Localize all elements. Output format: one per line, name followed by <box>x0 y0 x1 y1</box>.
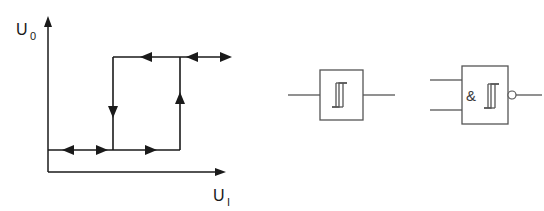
y-axis-label-main: U <box>16 21 28 38</box>
high-branch-tail-arrow-right <box>220 52 232 62</box>
left-vertical-arrow-down <box>108 106 118 118</box>
schmitt-trigger-symbol <box>288 70 395 120</box>
low-branch-arrow-right <box>96 145 108 155</box>
technical-diagram: U 0 U I & <box>0 0 544 211</box>
left-vertical-transition <box>108 57 118 150</box>
and-operator-label: & <box>466 87 476 104</box>
high-branch <box>113 52 232 62</box>
x-axis-label-main: U <box>213 187 225 204</box>
right-vertical-transition <box>175 57 185 150</box>
figure-canvas: U 0 U I & <box>0 0 544 211</box>
x-axis <box>48 168 226 176</box>
low-branch-inner-arrow-right <box>145 145 157 155</box>
high-branch-inner-arrow-left <box>140 52 152 62</box>
y-axis-arrowhead <box>44 16 52 27</box>
schmitt-trigger-body <box>320 70 363 120</box>
high-branch-tail-arrow-left <box>186 52 198 62</box>
hysteresis-chart: U 0 U I <box>16 16 232 208</box>
x-axis-arrowhead <box>215 168 226 176</box>
inversion-bubble-icon <box>508 91 516 99</box>
y-axis-label-subscript: 0 <box>30 30 36 42</box>
x-axis-label-subscript: I <box>227 196 230 208</box>
right-vertical-arrow-up <box>175 92 185 104</box>
low-branch-arrow-left <box>62 145 74 155</box>
y-axis-label: U 0 <box>16 21 36 42</box>
x-axis-label: U I <box>213 187 230 208</box>
schmitt-nand-symbol: & <box>430 66 542 124</box>
y-axis <box>44 16 52 172</box>
low-branch <box>48 145 180 155</box>
